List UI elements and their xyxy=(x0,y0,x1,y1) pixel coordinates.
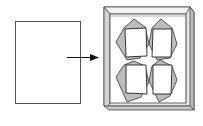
blank-sheet xyxy=(16,22,81,104)
diagram-canvas xyxy=(0,0,203,126)
frame xyxy=(104,7,194,110)
